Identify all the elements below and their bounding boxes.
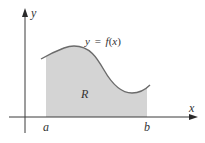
x-axis-label: x bbox=[188, 101, 195, 115]
bound-b-label: b bbox=[144, 120, 150, 134]
bound-a-label: a bbox=[43, 120, 49, 134]
curve-label-close: ) bbox=[117, 35, 121, 48]
y-axis-arrow-icon bbox=[22, 8, 28, 17]
curve-label-eq: = bbox=[95, 35, 101, 47]
curve-label-lhs: y bbox=[84, 35, 90, 47]
shaded-region bbox=[46, 46, 147, 117]
curve-label: y = f(x) bbox=[84, 35, 121, 48]
y-axis-label: y bbox=[30, 6, 37, 20]
area-diagram: y x y = f(x) R a b bbox=[0, 0, 205, 143]
region-label: R bbox=[80, 87, 89, 101]
